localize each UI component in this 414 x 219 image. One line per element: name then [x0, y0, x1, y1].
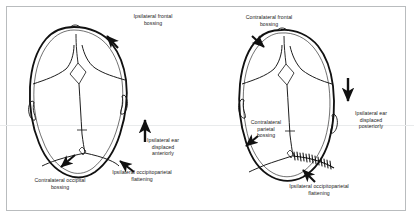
label-ipsilateral-ear-displaced-posteriorly: Ipsilateral ear displaced posteriorly: [339, 110, 403, 130]
label-contralateral-occipital-bossing: Contralateral occipital bossing: [14, 177, 106, 190]
right-skull-inner-outline: [243, 33, 330, 177]
label-ipsilateral-frontal-bossing: Ipsilateral frontal bossing: [116, 13, 190, 26]
left-skull-lambdoid-suture-right: [85, 153, 119, 166]
figure-root: Ipsilateral frontal bossing Ipsilateral …: [0, 0, 414, 219]
label-ipsilateral-ear-displaced-anteriorly: Ipsilateral ear displaced anteriorly: [132, 137, 194, 157]
left-skull-coronal-suture-right: [82, 45, 125, 80]
label-ipsilateral-occipitoparietal-flattening-left: Ipsilateral occipitoparietal flattening: [94, 169, 190, 182]
left-skull-drawing: [29, 25, 128, 177]
label-contralateral-parietal-bossing: Contralateral parietal bossing: [241, 119, 291, 139]
right-skull-drawing: [239, 28, 338, 181]
right-skull-anterior-fontanelle: [278, 64, 294, 85]
left-skull-inner-outline: [34, 30, 123, 173]
left-skull-anterior-fontanelle: [70, 63, 86, 84]
right-skull-lambdoid-suture-left-open: [249, 156, 292, 172]
label-ipsilateral-occipitoparietal-flattening-right: Ipsilateral occipitoparietal flattening: [271, 183, 367, 196]
right-skull-metopic-suture: [284, 36, 286, 64]
label-contralateral-frontal-bossing: Contralateral frontal bossing: [229, 14, 309, 27]
right-panel-arrows: [246, 36, 348, 182]
left-skull-metopic-suture: [76, 34, 78, 63]
left-skull-sagittal-suture: [79, 84, 85, 153]
right-skull-lambdoid-suture-fused-hatching: [293, 152, 334, 169]
right-skull-coronal-suture-right: [290, 46, 332, 84]
